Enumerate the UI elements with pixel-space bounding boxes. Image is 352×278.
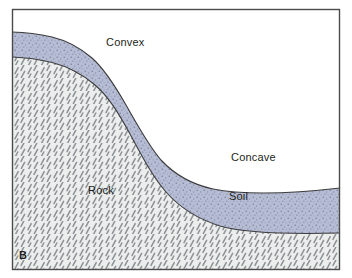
- slope-profile-figure: Convex Concave Rock Soil B: [0, 0, 352, 278]
- panel-letter-label: B: [19, 249, 27, 261]
- label-soil: Soil: [229, 190, 248, 202]
- label-rock: Rock: [88, 184, 114, 196]
- label-concave: Concave: [231, 151, 276, 163]
- cross-section-svg: [0, 0, 352, 278]
- label-convex: Convex: [106, 36, 145, 48]
